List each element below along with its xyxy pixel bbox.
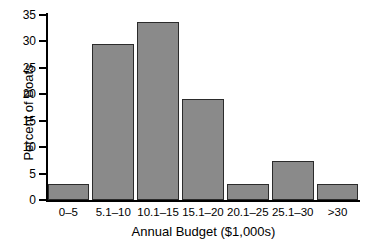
y-axis-tick-label: 10 bbox=[2, 141, 36, 153]
bar bbox=[227, 184, 269, 200]
y-axis-tick-label: 15 bbox=[2, 115, 36, 127]
x-axis-tick-label: 0–5 bbox=[46, 206, 91, 218]
y-axis-tick bbox=[39, 40, 46, 42]
y-axis-tick bbox=[39, 120, 46, 122]
x-axis-line bbox=[46, 200, 360, 202]
bar bbox=[182, 99, 224, 200]
x-axis-tick-label: 20.1–25 bbox=[225, 206, 270, 218]
bar bbox=[92, 44, 134, 200]
x-axis-tick-label: 5.1–10 bbox=[91, 206, 136, 218]
y-axis-tick bbox=[39, 146, 46, 148]
y-axis-tick-label: 30 bbox=[2, 35, 36, 47]
y-axis-tick bbox=[39, 67, 46, 69]
x-axis-tick-label: 10.1–15 bbox=[136, 206, 181, 218]
y-axis-tick-label: 35 bbox=[2, 9, 36, 21]
y-axis-tick bbox=[39, 199, 46, 201]
y-axis-tick-label: 25 bbox=[2, 62, 36, 74]
y-axis-tick-label: 0 bbox=[2, 194, 36, 206]
histogram-chart: Percent of Boats 05101520253035 0–55.1–1… bbox=[0, 0, 367, 246]
x-axis-tick-label: >30 bbox=[315, 206, 360, 218]
bar bbox=[48, 184, 90, 200]
x-axis-tick-label: 25.1–30 bbox=[270, 206, 315, 218]
y-axis-tick-label: 20 bbox=[2, 88, 36, 100]
bar bbox=[317, 184, 359, 200]
x-axis-tick-label: 15.1–20 bbox=[181, 206, 226, 218]
y-axis-tick bbox=[39, 173, 46, 175]
bar bbox=[137, 22, 179, 200]
bar-series bbox=[46, 0, 360, 200]
bar bbox=[272, 161, 314, 200]
y-axis-tick bbox=[39, 93, 46, 95]
x-axis-title: Annual Budget ($1,000s) bbox=[0, 224, 367, 239]
y-axis-tick bbox=[39, 14, 46, 16]
y-axis-tick-label: 5 bbox=[2, 168, 36, 180]
